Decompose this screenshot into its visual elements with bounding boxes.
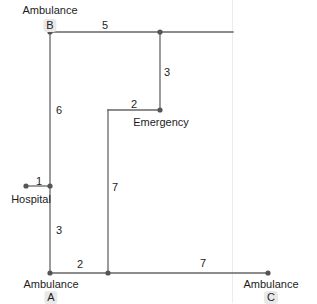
node-label-hospital: Hospital: [11, 194, 51, 205]
node-dot-hospital-junction[interactable]: [47, 183, 52, 188]
node-tag-b: B: [43, 19, 56, 32]
node-label-ambulance-b: Ambulance: [22, 5, 77, 16]
node-dot-hospital[interactable]: [23, 183, 28, 188]
node-label-emergency: Emergency: [133, 117, 189, 128]
edge-weight-b-to-hospital-junction: 6: [56, 105, 62, 116]
edge-weight-bottom-junction-to-c: 7: [200, 258, 206, 269]
node-dot-bottom-junction[interactable]: [105, 270, 110, 275]
node-dot-ambulance-a[interactable]: [47, 270, 52, 275]
node-label-ambulance-a: Ambulance: [23, 279, 78, 290]
node-tag-c: C: [264, 291, 278, 304]
edge-weight-a-to-bottom-junction: 2: [77, 259, 83, 270]
edge-weight-topcorner-to-emergency: 3: [164, 67, 170, 78]
edge-weight-corner-to-bottom-junction: 7: [112, 182, 118, 193]
edge-weight-emergency-to-corner: 2: [131, 99, 137, 110]
edge-weight-hospital-to-junction: 1: [36, 176, 42, 187]
node-dot-ambulance-c[interactable]: [265, 270, 270, 275]
node-dot-emergency[interactable]: [157, 107, 162, 112]
node-dot-top-corner[interactable]: [157, 29, 162, 34]
edge-weight-junction-to-a: 3: [56, 225, 62, 236]
node-tag-a: A: [44, 291, 57, 304]
node-label-ambulance-c: Ambulance: [243, 279, 298, 290]
edge-weight-b-to-top-right: 5: [102, 20, 108, 31]
